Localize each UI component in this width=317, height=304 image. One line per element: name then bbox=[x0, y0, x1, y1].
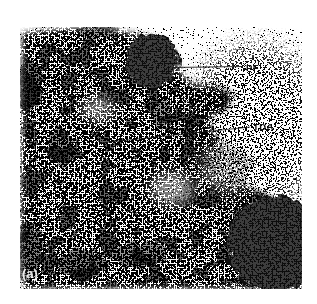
figure-page: PF TDA (a) bbox=[0, 0, 317, 304]
micrograph-svg: PF TDA (a) bbox=[20, 27, 302, 289]
pf-label: PF bbox=[246, 62, 259, 73]
panel-label: (a) bbox=[22, 266, 38, 281]
micrograph-panel: PF TDA (a) bbox=[20, 27, 302, 289]
tda-label: TDA bbox=[253, 121, 274, 132]
